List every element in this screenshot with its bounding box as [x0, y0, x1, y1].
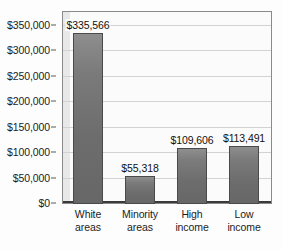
- bar[interactable]: [229, 146, 258, 204]
- y-tick-mark: [51, 152, 56, 153]
- y-tick-mark: [51, 203, 56, 204]
- bar[interactable]: [177, 148, 206, 204]
- x-category-line: Minority: [114, 208, 166, 221]
- y-tick-label: $150,000: [7, 121, 50, 133]
- y-tick-label: $50,000: [13, 172, 50, 184]
- bar-slot: $55,318: [114, 11, 166, 204]
- bar-value-label: $113,491: [222, 132, 266, 144]
- y-tick-mark: [51, 75, 56, 76]
- x-category-line: areas: [62, 221, 114, 234]
- bar-slot: $109,606: [166, 11, 218, 204]
- y-tick-mark: [51, 24, 56, 25]
- bar-chart: $350,000 $300,000 $250,000 $200,000 $150…: [0, 0, 282, 250]
- y-tick-mark: [51, 101, 56, 102]
- y-tick-label: $100,000: [7, 146, 50, 158]
- bar-value-label: $55,318: [120, 162, 159, 174]
- y-tick-mark: [51, 126, 56, 127]
- y-tick-mark: [51, 50, 56, 51]
- y-tick-label: $300,000: [7, 44, 50, 56]
- x-category-line: income: [166, 221, 218, 234]
- bar[interactable]: [125, 176, 154, 204]
- y-tick-label: $350,000: [7, 19, 50, 31]
- bars-layer: $335,566 $55,318 $109,606 $113,491: [62, 11, 272, 204]
- x-category-line: White: [62, 208, 114, 221]
- y-tick-label: $0: [39, 197, 50, 209]
- bar[interactable]: [73, 33, 102, 204]
- y-tick-label: $250,000: [7, 70, 50, 82]
- x-category-label: High income: [166, 208, 218, 234]
- x-category-line: High: [166, 208, 218, 221]
- x-category-line: income: [218, 221, 270, 234]
- bar-value-label: $109,606: [170, 134, 215, 146]
- x-category-label: Low income: [218, 208, 270, 234]
- y-tick-mark: [51, 177, 56, 178]
- x-category-line: Low: [218, 208, 270, 221]
- bar-value-label: $335,566: [66, 19, 111, 31]
- y-tick-label: $200,000: [7, 95, 50, 107]
- bar-slot: $113,491: [218, 11, 270, 204]
- x-category-line: areas: [114, 221, 166, 234]
- y-axis: $350,000 $300,000 $250,000 $200,000 $150…: [0, 0, 56, 250]
- x-axis: White areas Minority areas High income L…: [62, 208, 272, 250]
- bar-slot: $335,566: [62, 11, 114, 204]
- x-category-label: Minority areas: [114, 208, 166, 234]
- x-category-label: White areas: [62, 208, 114, 234]
